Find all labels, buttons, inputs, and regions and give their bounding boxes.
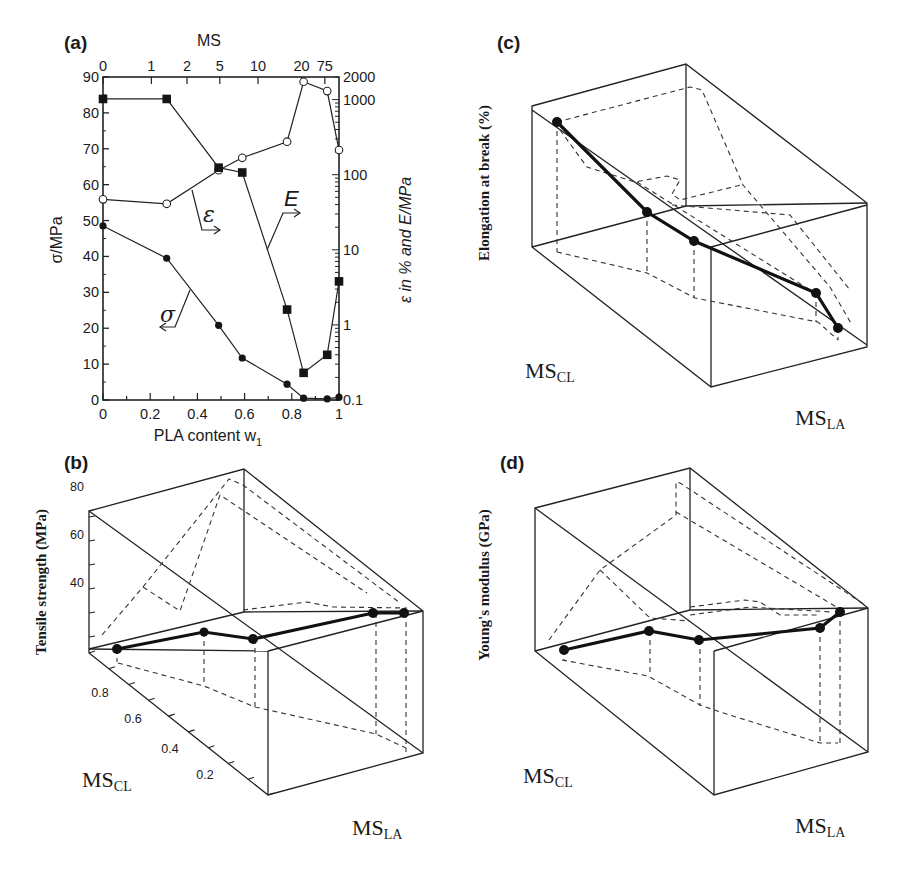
box-frame — [89, 469, 423, 795]
y-axis-title-sub: CL — [555, 775, 573, 790]
x-axis-title-sub: LA — [384, 827, 404, 842]
y-tick-label: 0.2 — [196, 768, 213, 782]
plot-frame — [103, 77, 339, 400]
data-point — [238, 168, 247, 177]
top-tick-label: 1 — [147, 58, 155, 74]
annotation-epsilon-label: ε — [203, 202, 215, 227]
annotation-sigma-label: σ — [160, 302, 176, 327]
y-axis-title-text: MS — [82, 767, 114, 792]
y-axis-title: MSCL — [523, 763, 573, 790]
z-tick-label: 60 — [70, 528, 84, 542]
z-axis-title: Elongation at break (%) — [476, 105, 493, 261]
top-tick-label: 10 — [250, 58, 266, 74]
bottom-tick-label: 0 — [99, 406, 107, 422]
bottom-tick-label: 0.6 — [235, 406, 255, 422]
data-point — [833, 323, 843, 333]
y-axis-title-text: MS — [525, 358, 557, 383]
right-tick-label: 2000 — [343, 69, 375, 85]
left-tick-label: 20 — [83, 320, 99, 336]
panel-d-chart: (d) — [476, 452, 868, 840]
data-point — [99, 196, 107, 204]
data-point — [694, 635, 704, 645]
data-point — [323, 350, 332, 359]
data-point — [335, 277, 344, 286]
y-axis-title-sub: CL — [557, 370, 575, 385]
x-axis-title: MSLA — [352, 815, 403, 842]
data-point — [552, 117, 562, 127]
left-tick-label: 70 — [83, 141, 99, 157]
z-tick-label: 80 — [70, 480, 84, 494]
right-tick-label: 1000 — [343, 92, 375, 108]
panel-c-chart: (c) — [476, 32, 867, 432]
y-axis-ticks: 0.80.60.40.2 — [89, 651, 274, 795]
z-tick-label: 40 — [70, 576, 84, 590]
figure: (a) MS 0125102075 0102030405060708090 0.… — [0, 0, 897, 869]
data-point — [215, 322, 222, 329]
data-point — [644, 626, 654, 636]
right-axis-title: ε in % and E/MPa — [397, 177, 414, 303]
left-tick-label: 90 — [83, 69, 99, 85]
top-tick-label: 0 — [99, 58, 107, 74]
data-point — [248, 634, 258, 644]
left-tick-label: 40 — [83, 248, 99, 264]
data-point — [163, 200, 171, 208]
left-tick-label: 30 — [83, 284, 99, 300]
bottom-axis-title-sub: 1 — [256, 436, 262, 448]
x-axis-title: MSLA — [795, 813, 846, 840]
z-axis-title: Tensile strength (MPa) — [33, 509, 50, 655]
data-point — [399, 608, 409, 618]
data-line — [552, 117, 843, 333]
left-tick-label: 50 — [83, 213, 99, 229]
y-axis-title-sub: CL — [114, 779, 132, 794]
x-axis-title-text: MS — [352, 815, 384, 840]
data-point — [238, 154, 246, 162]
top-tick-label: 5 — [216, 58, 224, 74]
data-point — [300, 78, 308, 86]
right-tick-label: 0.1 — [343, 392, 363, 408]
data-line — [112, 608, 409, 654]
left-axis-ticks: 0102030405060708090 — [83, 69, 109, 408]
data-point — [300, 395, 307, 402]
x-axis-title-sub: LA — [827, 417, 847, 432]
panel-b-chart: (b) 406080 — [33, 452, 423, 842]
data-point — [283, 381, 290, 388]
right-tick-label: 10 — [343, 242, 359, 258]
projection-lines — [549, 482, 865, 745]
x-axis-title-text: MS — [795, 405, 827, 430]
plot-series — [99, 78, 344, 403]
data-point — [811, 288, 821, 298]
data-point — [200, 628, 209, 637]
data-point — [112, 644, 122, 654]
right-tick-label: 1 — [343, 317, 351, 333]
data-point — [323, 87, 331, 95]
bottom-axis-title-text: PLA content w — [154, 427, 257, 444]
projection-lines — [557, 87, 852, 340]
data-point — [335, 394, 342, 401]
top-tick-label: 2 — [183, 58, 191, 74]
data-point — [239, 354, 246, 361]
left-tick-label: 10 — [83, 356, 99, 372]
top-tick-label: 75 — [317, 58, 333, 74]
y-axis-title: MSCL — [525, 358, 575, 385]
box-frame — [532, 64, 867, 387]
y-axis-title: MSCL — [82, 767, 132, 794]
y-tick-label: 0.4 — [161, 742, 178, 756]
series-line — [103, 82, 339, 204]
data-point — [214, 163, 223, 172]
data-point — [299, 369, 308, 378]
panel-label-d: (d) — [500, 452, 524, 473]
top-axis-title: MS — [197, 32, 221, 49]
panel-label-c: (c) — [497, 32, 520, 53]
data-point — [689, 236, 699, 246]
left-tick-label: 80 — [83, 105, 99, 121]
data-point — [162, 95, 171, 104]
bottom-axis-title: PLA content w1 — [154, 427, 262, 448]
right-tick-label: 100 — [343, 167, 367, 183]
data-point — [163, 255, 170, 262]
data-point — [815, 623, 825, 633]
bottom-tick-label: 0.4 — [187, 406, 207, 422]
panel-label-b: (b) — [64, 452, 88, 473]
data-point — [559, 645, 569, 655]
data-point — [324, 395, 331, 402]
left-tick-label: 0 — [91, 392, 99, 408]
